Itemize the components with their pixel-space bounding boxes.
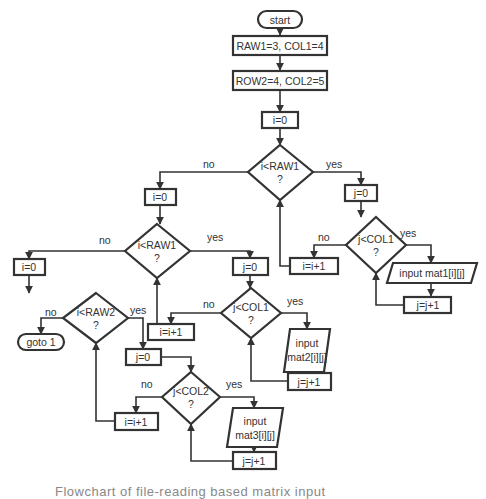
goto-terminal: goto 1 xyxy=(18,334,64,350)
svg-text:?: ? xyxy=(93,319,99,331)
process-iinc-a: i=i+1 xyxy=(290,258,338,274)
process-j0-a: j=0 xyxy=(345,185,377,201)
decision-c2: j<COL2 ? xyxy=(162,372,220,424)
svg-text:start: start xyxy=(270,14,291,26)
svg-text:?: ? xyxy=(248,314,254,326)
label-no: no xyxy=(141,378,153,390)
label-yes: yes xyxy=(130,304,146,316)
svg-text:j=0: j=0 xyxy=(135,351,150,363)
svg-text:i=0: i=0 xyxy=(273,114,287,126)
svg-text:i<RAW1: i<RAW1 xyxy=(138,239,177,251)
decision-b2: j<COL1 ? xyxy=(221,288,281,338)
process-i0-a: i=0 xyxy=(262,112,298,128)
start-terminal: start xyxy=(258,11,302,28)
svg-text:mat3[i][j]: mat3[i][j] xyxy=(235,429,275,441)
label-yes: yes xyxy=(226,378,242,390)
svg-text:j<COL1: j<COL1 xyxy=(232,301,269,313)
process-jinc-a: j=j+1 xyxy=(404,297,451,313)
svg-text:input: input xyxy=(296,337,319,349)
svg-text:goto 1: goto 1 xyxy=(26,336,55,348)
init-box-1: RAW1=3, COL1=4 xyxy=(233,36,327,55)
process-i0-c: i=0 xyxy=(14,259,45,275)
svg-text:i=i+1: i=i+1 xyxy=(125,416,148,428)
svg-text:input mat1[i][j]: input mat1[i][j] xyxy=(399,267,464,279)
label-no: no xyxy=(203,298,215,310)
process-j0-b: j=0 xyxy=(233,258,268,275)
process-iinc-b: i=i+1 xyxy=(148,324,194,340)
label-yes: yes xyxy=(287,295,303,307)
svg-text:j=0: j=0 xyxy=(353,187,368,199)
label-no: no xyxy=(45,306,57,318)
init-box-2: ROW2=4, COL2=5 xyxy=(233,71,327,90)
svg-text:i=i+1: i=i+1 xyxy=(160,326,183,338)
svg-text:j<COL2: j<COL2 xyxy=(172,385,209,397)
svg-text:j<COL1: j<COL1 xyxy=(357,233,394,245)
svg-text:?: ? xyxy=(277,173,283,185)
input-mat1: input mat1[i][j] xyxy=(387,263,477,283)
svg-text:i=0: i=0 xyxy=(153,191,167,203)
label-yes: yes xyxy=(207,231,223,243)
process-j0-c: j=0 xyxy=(126,349,161,365)
label-yes: yes xyxy=(326,158,342,170)
svg-text:?: ? xyxy=(188,398,194,410)
svg-text:j=0: j=0 xyxy=(242,261,257,273)
svg-text:input: input xyxy=(244,415,267,427)
svg-text:RAW1=3, COL1=4: RAW1=3, COL1=4 xyxy=(236,40,323,52)
label-no: no xyxy=(203,158,215,170)
svg-text:ROW2=4, COL2=5: ROW2=4, COL2=5 xyxy=(236,75,325,87)
process-jinc-b: j=j+1 xyxy=(288,373,331,390)
decision-c: i<RAW2 ? xyxy=(63,293,128,343)
decision-a: i<RAW1 ? xyxy=(248,145,313,200)
process-i0-b: i=0 xyxy=(145,189,176,205)
svg-text:mat2[i][j]: mat2[i][j] xyxy=(287,351,327,363)
figure-caption: Flowchart of file-reading based matrix i… xyxy=(55,484,326,499)
svg-text:i=i+1: i=i+1 xyxy=(303,260,326,272)
input-mat3: input mat3[i][j] xyxy=(227,408,283,447)
svg-text:i<RAW1: i<RAW1 xyxy=(261,160,300,172)
label-yes: yes xyxy=(400,227,416,239)
label-no: no xyxy=(318,231,330,243)
label-no: no xyxy=(99,234,111,246)
decision-b: i<RAW1 ? xyxy=(125,224,190,278)
process-iinc-c: i=i+1 xyxy=(115,413,158,430)
svg-text:?: ? xyxy=(373,246,379,258)
svg-text:i<RAW2: i<RAW2 xyxy=(77,306,116,318)
svg-text:j=j+1: j=j+1 xyxy=(297,376,321,388)
process-jinc-c: j=j+1 xyxy=(233,452,276,469)
svg-text:?: ? xyxy=(154,252,160,264)
svg-text:j=j+1: j=j+1 xyxy=(242,455,266,467)
svg-text:j=j+1: j=j+1 xyxy=(416,299,440,311)
input-mat2: input mat2[i][j] xyxy=(284,329,330,372)
svg-text:i=0: i=0 xyxy=(22,261,36,273)
